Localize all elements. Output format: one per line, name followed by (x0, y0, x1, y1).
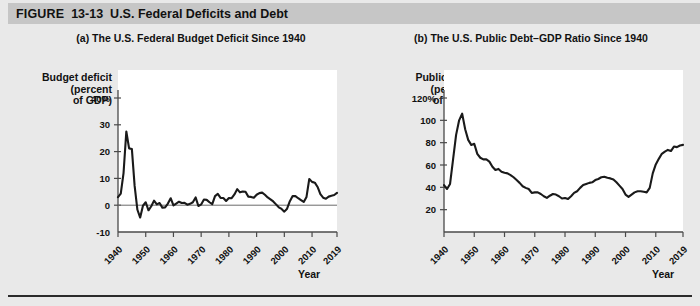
svg-b-y-tick-label: 100 (420, 115, 436, 126)
svg-b-y-tick-label: 60 (425, 160, 436, 171)
svg-a-x-tick-label: 1960 (157, 244, 180, 267)
panel-b-plot: 20406080100120%1940195019601970198019902… (352, 28, 696, 290)
svg-b-background (444, 70, 683, 232)
svg-a-x-tick-label: 1990 (240, 244, 263, 267)
figure-header-bar: FIGURE 13-13 U.S. Federal Deficits and D… (8, 3, 700, 24)
panel-a-x-axis-title: Year (298, 268, 320, 280)
svg-b-y-tick-label: 40 (425, 182, 436, 193)
svg-b-y-tick-label: 20 (425, 204, 436, 215)
figure-label: FIGURE (16, 7, 64, 21)
svg-a-y-tick-label: 10 (99, 173, 110, 184)
figure-bottom-rule (8, 295, 692, 297)
svg-a-x-tick-label: 1950 (129, 244, 152, 267)
svg-a-x-tick-label: 1940 (102, 244, 125, 267)
chart-panel-b: (b) The U.S. Public Debt–GDP Ratio Since… (352, 28, 696, 290)
svg-b-x-tick-label: 1960 (488, 244, 511, 267)
svg-b-x-tick-label: 1970 (518, 244, 541, 267)
figure-title: U.S. Federal Deficits and Debt (110, 7, 288, 21)
figure-page: FIGURE 13-13 U.S. Federal Deficits and D… (0, 0, 700, 306)
svg-a-x-tick-label: 2019 (321, 244, 344, 267)
svg-b-x-tick-label: 2000 (609, 244, 632, 267)
svg-a-y-tick-label: -10 (96, 227, 110, 238)
svg-a-y-tick-label: 30 (99, 119, 110, 130)
svg-a-y-tick-label: 40% (91, 93, 111, 104)
svg-a-y-tick-label: 20 (99, 146, 110, 157)
svg-a-x-tick-label: 1970 (185, 244, 208, 267)
svg-b-x-tick-label: 1940 (428, 244, 451, 267)
svg-b-x-tick-label: 2010 (639, 244, 662, 267)
svg-b-x-tick-label: 1950 (458, 244, 481, 267)
svg-b-y-tick-label: 80 (425, 137, 436, 148)
chart-panel-a: (a) The U.S. Federal Budget Deficit Sinc… (6, 28, 350, 290)
svg-b-x-tick-label: 1990 (579, 244, 602, 267)
svg-b-y-tick-label: 120% (412, 93, 437, 104)
svg-a-x-tick-label: 2010 (296, 244, 319, 267)
svg-b-x-tick-label: 2019 (667, 244, 690, 267)
svg-a-x-tick-label: 1980 (213, 244, 236, 267)
svg-a-x-tick-label: 2000 (268, 244, 291, 267)
svg-b-x-tick-label: 1980 (549, 244, 572, 267)
svg-a-y-tick-label: 0 (105, 200, 110, 211)
panel-b-x-axis-title: Year (652, 268, 674, 280)
figure-number: 13-13 (71, 7, 103, 21)
panel-a-plot: -10010203040%194019501960197019801990200… (6, 28, 350, 290)
